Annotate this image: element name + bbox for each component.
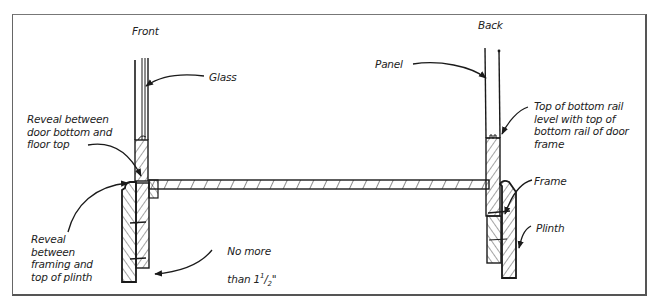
cabinet-base-section-drawing — [0, 0, 656, 304]
front-frame — [136, 180, 158, 268]
top-of-bottom-rail-label: Top of bottom rail level with top of bot… — [534, 100, 629, 150]
back-heading: Back — [478, 19, 503, 32]
panel-label: Panel — [375, 58, 403, 71]
front-heading: Front — [132, 25, 159, 38]
no-more-than-label: No more than 11/2" — [221, 232, 276, 290]
reveal-framing-plinth-label: Reveal between framing and top of plinth — [31, 233, 93, 283]
reveal-door-floor-label: Reveal between door bottom and floor top — [27, 113, 112, 151]
plinth-label: Plinth — [536, 222, 564, 235]
cabinet-floor — [149, 180, 489, 189]
back-panel — [485, 48, 500, 138]
glass-label: Glass — [209, 71, 236, 84]
front-door-stile — [135, 58, 148, 181]
frame-label: Frame — [534, 175, 566, 188]
back-door-frame — [486, 135, 501, 263]
